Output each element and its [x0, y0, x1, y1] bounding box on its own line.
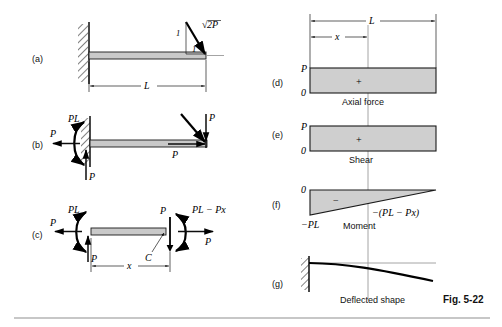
reaction-axial-label-b: P	[49, 128, 56, 139]
shear-top-value-e: P	[300, 121, 307, 132]
panel-b-label: (b)	[32, 140, 43, 150]
panel-d: (d) L x P 0 + Axial force	[272, 13, 436, 107]
dimension-L-d: L	[310, 13, 436, 68]
panel-d-label: (d)	[272, 78, 283, 88]
load-label-a: √ 2P	[202, 19, 221, 30]
centroid-marker-c	[152, 233, 164, 252]
shear-caption-e: Shear	[349, 155, 373, 165]
shear-sign-e: +	[356, 134, 362, 145]
reaction-moment-label-b: PL	[67, 113, 80, 124]
moment-cut-value-f: −(PL − Px)	[372, 207, 420, 219]
moment-left-value-f: −PL	[301, 219, 320, 230]
figure-5-22: (a) 1 1 √ 2P	[0, 0, 502, 327]
panel-e: (e) P 0 + Shear	[272, 121, 436, 165]
axial-bottom-value-d: 0	[301, 87, 306, 98]
fixed-support-g	[301, 256, 309, 292]
panel-f-label: (f)	[272, 200, 281, 210]
applied-axial-label-b: P	[171, 149, 178, 160]
internal-shear-label-c: P	[159, 205, 166, 216]
shear-diagram	[310, 126, 436, 151]
slope-run-label-a: 1	[192, 44, 196, 54]
panel-e-label: (e)	[272, 130, 283, 140]
internal-shear-c	[167, 217, 174, 252]
load-magnitude-a: 2P	[207, 19, 218, 30]
fixed-support-a	[78, 22, 89, 84]
axial-force-diagram	[310, 68, 436, 93]
applied-diagonal-b	[181, 114, 205, 142]
dimension-L-a: L	[89, 60, 206, 92]
panel-c-label: (c)	[32, 230, 43, 240]
panel-f: (f) 0 − −PL −(PL − Px) Moment	[272, 184, 436, 231]
centroid-label-c: C	[145, 252, 152, 263]
beam-a	[89, 52, 206, 59]
reaction-vertical-label-b: P	[88, 171, 95, 182]
moment-sign-f: −	[333, 195, 339, 206]
panel-g: (g) Deflected shape	[272, 256, 436, 305]
figure-number-label: Fig. 5-22	[443, 294, 484, 305]
slope-rise-label-a: 1	[176, 28, 180, 38]
axial-sign-d: +	[356, 76, 362, 87]
deflected-curve-g	[309, 263, 433, 281]
internal-moment-c	[176, 214, 186, 251]
applied-vertical-label-b: P	[208, 112, 215, 123]
segment-moment-left-label-c: PL	[67, 204, 80, 215]
panel-c: (c) PL P P C	[32, 204, 226, 272]
dimension-x-label-d: x	[334, 31, 340, 42]
dimension-x-c: x	[91, 238, 170, 272]
panel-a-label: (a)	[32, 54, 43, 64]
panel-b: (b) PL P P	[32, 112, 215, 182]
internal-axial-label-c: P	[204, 236, 211, 247]
panel-g-label: (g)	[272, 279, 283, 289]
dimension-L-label-d: L	[368, 15, 375, 26]
segment-axial-left-label-c: P	[49, 217, 56, 228]
panel-a: (a) 1 1 √ 2P	[32, 19, 224, 92]
beam-c	[91, 228, 166, 235]
axial-top-value-d: P	[300, 63, 307, 74]
dimension-x-d: x	[311, 29, 367, 42]
dimension-x-label-c: x	[126, 260, 132, 271]
deflected-caption-g: Deflected shape	[340, 295, 405, 305]
internal-moment-label-c: PL − Px	[191, 204, 226, 215]
shear-bottom-value-e: 0	[301, 145, 306, 156]
moment-top-value-f: 0	[301, 184, 306, 195]
dimension-L-label-a: L	[143, 80, 150, 91]
axial-caption-d: Axial force	[342, 97, 384, 107]
moment-caption-f: Moment	[343, 221, 376, 231]
